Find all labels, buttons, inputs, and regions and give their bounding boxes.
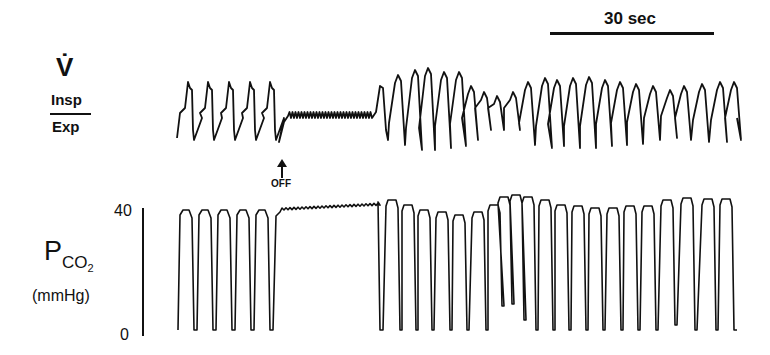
up-arrow-icon xyxy=(277,159,287,178)
traces xyxy=(0,0,770,355)
flow-trace xyxy=(177,68,741,150)
pco2-trace xyxy=(178,195,737,330)
